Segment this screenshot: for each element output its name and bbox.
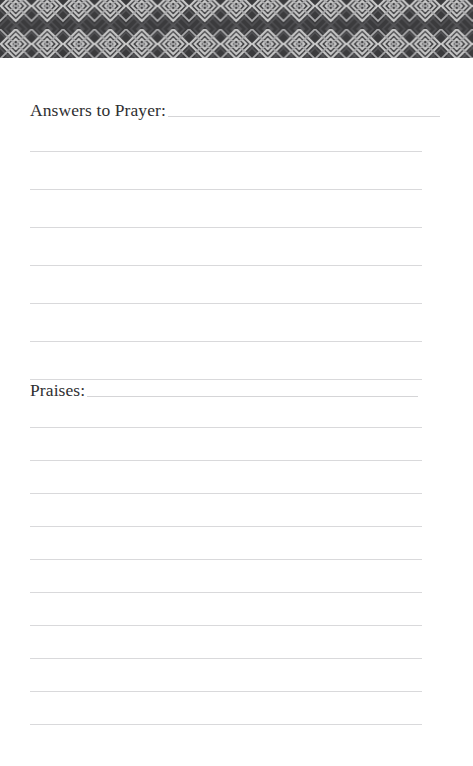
writing-line[interactable]	[30, 427, 422, 428]
section-praises: Praises:	[30, 379, 422, 725]
writing-line[interactable]	[30, 303, 422, 304]
section-header-praises: Praises:	[30, 379, 422, 405]
section-answers-to-prayer: Answers to Prayer:	[30, 99, 422, 380]
journal-page: Answers to Prayer: Praises:	[0, 0, 473, 766]
writing-line[interactable]	[87, 396, 418, 397]
writing-line[interactable]	[30, 625, 422, 626]
diamond-lattice-pattern-icon	[0, 0, 473, 58]
writing-line[interactable]	[30, 559, 422, 560]
writing-line[interactable]	[30, 460, 422, 461]
writing-line[interactable]	[30, 658, 422, 659]
section-header-answers: Answers to Prayer:	[30, 99, 422, 125]
writing-line[interactable]	[30, 341, 422, 342]
section-label-praises: Praises:	[30, 379, 87, 401]
section-label-answers: Answers to Prayer:	[30, 99, 168, 121]
writing-line[interactable]	[30, 526, 422, 527]
writing-lines-answers	[30, 151, 422, 380]
writing-line[interactable]	[30, 691, 422, 692]
paper-body: Answers to Prayer: Praises:	[0, 58, 473, 766]
writing-line[interactable]	[30, 265, 422, 266]
decorative-header-band	[0, 0, 473, 58]
writing-line[interactable]	[168, 116, 440, 117]
writing-line[interactable]	[30, 189, 422, 190]
writing-line[interactable]	[30, 493, 422, 494]
writing-line[interactable]	[30, 592, 422, 593]
writing-lines-praises	[30, 427, 422, 725]
writing-line[interactable]	[30, 724, 422, 725]
writing-line[interactable]	[30, 151, 422, 152]
writing-line[interactable]	[30, 227, 422, 228]
